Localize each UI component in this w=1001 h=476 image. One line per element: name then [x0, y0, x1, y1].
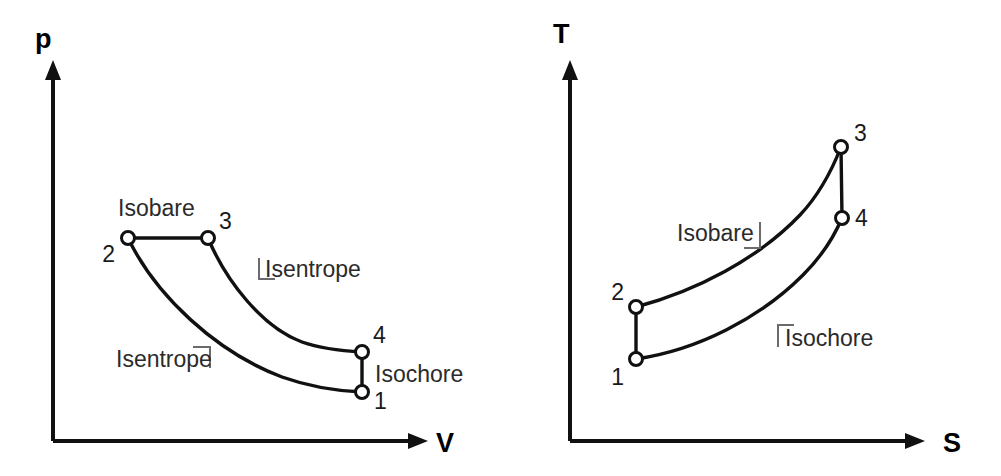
ts-state-marker-2	[630, 301, 643, 314]
ts-y-axis-arrowhead	[562, 60, 578, 80]
pv-axes: p V	[35, 24, 454, 458]
pv-state-marker-3	[202, 232, 215, 245]
ts-x-axis-label: S	[943, 428, 961, 458]
pv-x-axis-label: V	[436, 428, 454, 458]
ts-state-label-2: 2	[611, 279, 624, 305]
ts-state-marker-3	[835, 141, 848, 154]
ts-state-marker-4	[836, 212, 849, 225]
pv-process-label-isentrope-lower: Isentrope	[116, 346, 212, 372]
pv-process-labels: Isobare Isentrope Isentrope Isochore	[116, 195, 463, 387]
ts-state-label-4: 4	[855, 205, 868, 231]
pv-y-axis-arrowhead	[45, 60, 61, 80]
pv-process-label-isobare: Isobare	[118, 195, 195, 221]
pv-state-marker-4	[356, 346, 369, 359]
pv-state-label-2: 2	[102, 241, 115, 267]
pv-state-label-4: 4	[373, 322, 386, 348]
pv-process-label-isochore: Isochore	[375, 361, 463, 387]
pv-process-label-isentrope-upper: Isentrope	[265, 256, 361, 282]
ts-y-axis-label: T	[553, 19, 570, 49]
ts-process-label-isobare: Isobare	[677, 220, 754, 246]
pv-state-label-1: 1	[374, 388, 387, 414]
pv-diagram-panel: p V 1 2 3 4 Isobare Isentrope Isentr	[0, 0, 500, 476]
ts-state-label-1: 1	[611, 364, 624, 390]
pv-state-marker-1	[356, 386, 369, 399]
pv-x-axis-arrowhead	[408, 433, 428, 449]
pv-state-marker-2	[122, 232, 135, 245]
thermodynamic-cycle-figure: p V 1 2 3 4 Isobare Isentrope Isentr	[0, 0, 1001, 476]
pv-y-axis-label: p	[35, 24, 52, 54]
ts-state-marker-1	[630, 353, 643, 366]
ts-axes: T S	[553, 19, 961, 458]
ts-diagram-panel: T S 1 2 3 4 Isobare Isochore	[500, 0, 1001, 476]
ts-segment-isochore-3-4	[841, 147, 842, 218]
ts-x-axis-arrowhead	[905, 433, 925, 449]
ts-state-label-3: 3	[854, 120, 867, 146]
pv-state-label-3: 3	[219, 208, 232, 234]
ts-process-label-isochore: Isochore	[785, 325, 873, 351]
